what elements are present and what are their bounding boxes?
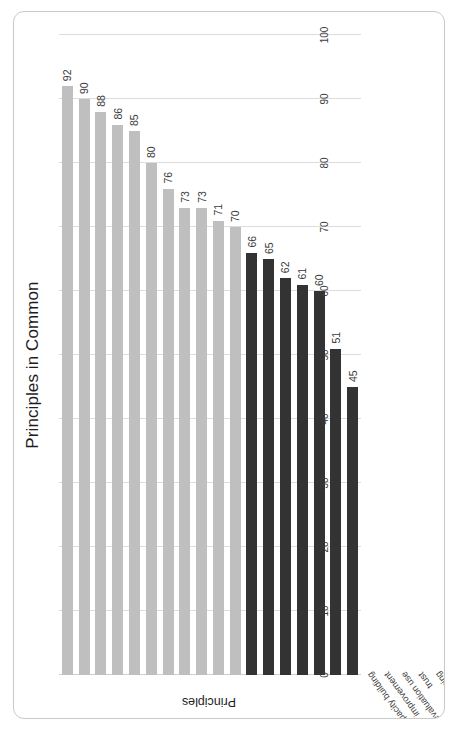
bar-value-label: 70 [229, 210, 241, 222]
bar [129, 131, 140, 675]
bar-row: 88 [93, 35, 110, 675]
bar-row: 45 [344, 35, 361, 675]
axis-tick-label: 90 [319, 93, 330, 104]
bar-value-label: 80 [145, 146, 157, 158]
axis-tick-label: 60 [319, 285, 330, 296]
value-axis-ticks: 0102030405060708090100 [313, 35, 335, 675]
bar-value-label: 76 [162, 172, 174, 184]
bar-row: 90 [76, 35, 93, 675]
bar [246, 253, 257, 675]
axis-tick-label: 30 [319, 477, 330, 488]
bar [230, 227, 241, 675]
bar-row: 73 [176, 35, 193, 675]
axis-tick-label: 20 [319, 541, 330, 552]
bar-row: 80 [143, 35, 160, 675]
bar-value-label: 73 [179, 191, 191, 203]
bar [297, 285, 308, 675]
bar-row: 85 [126, 35, 143, 675]
bar [280, 278, 291, 675]
bar-row: 70 [227, 35, 244, 675]
bar-row: 66 [244, 35, 261, 675]
bar [79, 99, 90, 675]
axis-tick-label: 10 [319, 605, 330, 616]
bar-row: 86 [109, 35, 126, 675]
category-axis-labels: capacity buildingimprovementevaluation u… [361, 35, 441, 675]
bar-value-label: 85 [128, 114, 140, 126]
bar-row: 73 [193, 35, 210, 675]
axis-tick-label: 0 [319, 672, 330, 678]
bar [112, 125, 123, 675]
bar-row: 76 [160, 35, 177, 675]
bar-value-label: 88 [95, 95, 107, 107]
bar [347, 387, 358, 675]
page-frame: Principles in Common 9290888685807673737… [13, 11, 445, 719]
bar-value-label: 86 [112, 108, 124, 120]
chart-rotation-wrapper: Principles in Common 9290888685807673737… [13, 11, 445, 719]
axis-tick-label: 40 [319, 413, 330, 424]
bar [263, 259, 274, 675]
bar-row: 65 [260, 35, 277, 675]
bar-row: 62 [277, 35, 294, 675]
bar [146, 163, 157, 675]
bar-value-label: 71 [212, 204, 224, 216]
bar [179, 208, 190, 675]
bar [62, 86, 73, 675]
bar-value-label: 62 [279, 262, 291, 274]
bar [95, 112, 106, 675]
axis-tick-label: 70 [319, 221, 330, 232]
bar [196, 208, 207, 675]
bar-value-label: 73 [196, 191, 208, 203]
chart-title: Principles in Common [23, 11, 43, 719]
bar-value-label: 92 [61, 70, 73, 82]
bar [163, 189, 174, 675]
axis-tick-label: 100 [319, 27, 330, 44]
bar-value-label: 90 [78, 82, 90, 94]
bar-value-label: 66 [246, 236, 258, 248]
axis-tick-label: 80 [319, 157, 330, 168]
axis-title: Principles [182, 695, 236, 709]
bar-row: 92 [59, 35, 76, 675]
bar-chart: Principles in Common 9290888685807673737… [13, 11, 445, 719]
axis-tick-label: 50 [319, 349, 330, 360]
bar-value-label: 65 [263, 242, 275, 254]
bar [213, 221, 224, 675]
bar-row: 71 [210, 35, 227, 675]
bar-row: 61 [294, 35, 311, 675]
bar-value-label: 61 [296, 268, 308, 280]
bar-value-label: 45 [347, 370, 359, 382]
